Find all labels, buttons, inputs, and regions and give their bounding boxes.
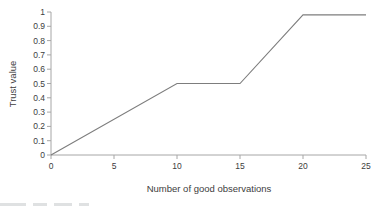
- y-axis-title: Trust value: [7, 61, 18, 108]
- caption-smudge: [33, 203, 47, 206]
- caption-smudge: [79, 203, 89, 206]
- y-tick-label: 0.6: [33, 64, 45, 74]
- cropped-caption-fragment: [0, 203, 150, 207]
- y-tick-label: 0.5: [33, 79, 45, 89]
- y-tick-label: 0.7: [33, 50, 45, 60]
- x-tick-label: 5: [112, 161, 117, 171]
- plot-area: 00.10.20.30.40.50.60.70.80.910510152025: [0, 0, 384, 207]
- y-tick-label: 0.1: [33, 136, 45, 146]
- y-tick-label: 0: [40, 150, 45, 160]
- x-axis-title: Number of good observations: [147, 183, 272, 194]
- series-trust-value: [51, 15, 366, 155]
- x-tick-label: 20: [298, 161, 308, 171]
- y-tick-label: 0.4: [33, 93, 45, 103]
- y-tick-label: 0.8: [33, 36, 45, 46]
- x-tick-label: 0: [49, 161, 54, 171]
- y-tick-label: 1: [40, 7, 45, 17]
- trust-value-line-chart: 00.10.20.30.40.50.60.70.80.910510152025 …: [0, 0, 384, 207]
- y-tick-label: 0.9: [33, 21, 45, 31]
- caption-smudge: [54, 203, 72, 206]
- y-tick-label: 0.2: [33, 121, 45, 131]
- caption-smudge: [0, 203, 26, 206]
- x-tick-label: 15: [235, 161, 245, 171]
- x-tick-label: 10: [172, 161, 182, 171]
- y-tick-label: 0.3: [33, 107, 45, 117]
- x-tick-label: 25: [361, 161, 371, 171]
